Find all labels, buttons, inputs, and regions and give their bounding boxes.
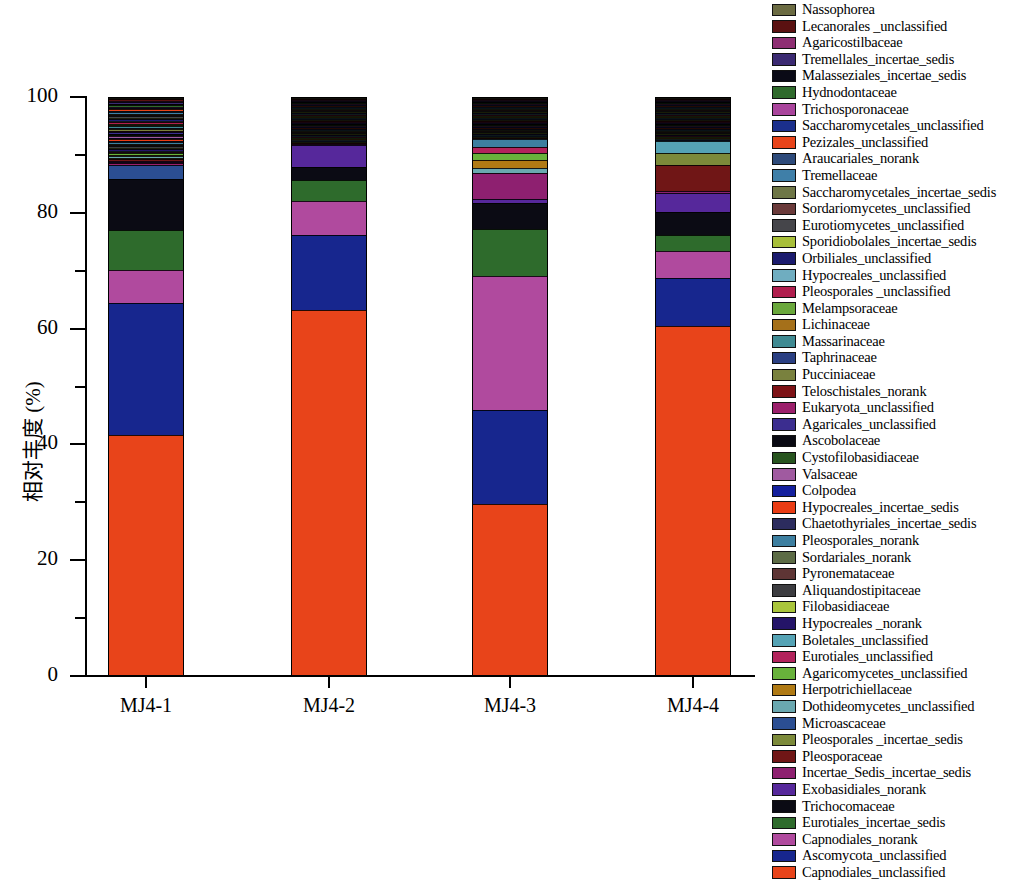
legend-item[interactable]: Agaricostilbaceae xyxy=(772,35,1036,52)
legend-item[interactable]: Melampsoraceae xyxy=(772,301,1036,318)
stacked-bar[interactable] xyxy=(291,97,367,676)
bar-segment[interactable] xyxy=(109,303,183,434)
legend-item[interactable]: Massarinaceae xyxy=(772,334,1036,351)
stacked-bar[interactable] xyxy=(108,97,184,676)
bar-segment[interactable] xyxy=(109,165,183,179)
legend-item[interactable]: Aliquandostipitaceae xyxy=(772,583,1036,600)
legend-label: Pezizales_unclassified xyxy=(802,135,928,150)
legend-item[interactable]: Sporidiobolales_incertae_sedis xyxy=(772,234,1036,251)
legend-item[interactable]: Exobasidiales_norank xyxy=(772,782,1036,799)
bar-segment[interactable] xyxy=(656,278,730,326)
bar-segment[interactable] xyxy=(109,179,183,230)
legend-item[interactable]: Teloschistales_norank xyxy=(772,384,1036,401)
legend-item[interactable]: Pyronemataceae xyxy=(772,566,1036,583)
bar-segment[interactable] xyxy=(109,270,183,303)
bar-segment[interactable] xyxy=(292,201,366,235)
bar-segment[interactable] xyxy=(656,235,730,251)
legend-item[interactable]: Hydnodontaceae xyxy=(772,85,1036,102)
legend-item[interactable]: Capnodiales_norank xyxy=(772,832,1036,849)
legend-item[interactable]: Boletales_unclassified xyxy=(772,633,1036,650)
legend-item[interactable]: Lichinaceae xyxy=(772,317,1036,334)
legend-item[interactable]: Eurotiales_unclassified xyxy=(772,649,1036,666)
bar-segment[interactable] xyxy=(473,153,547,160)
legend-label: Eukaryota_unclassified xyxy=(802,400,934,415)
legend-item[interactable]: Hypocreales_unclassified xyxy=(772,268,1036,285)
bar-segment[interactable] xyxy=(109,435,183,676)
legend-item[interactable]: Dothideomycetes_unclassified xyxy=(772,699,1036,716)
bar-segment[interactable] xyxy=(292,167,366,180)
bar-segment[interactable] xyxy=(656,165,730,191)
legend-item[interactable]: Nassophorea xyxy=(772,2,1036,19)
legend-item[interactable]: Saccharomycetales_incertae_sedis xyxy=(772,185,1036,202)
legend-item[interactable]: Saccharomycetales_unclassified xyxy=(772,118,1036,135)
legend-item[interactable]: Eukaryota_unclassified xyxy=(772,400,1036,417)
legend-item[interactable]: Hypocreales _norank xyxy=(772,616,1036,633)
bar-segment[interactable] xyxy=(656,141,730,153)
legend-label: Hydnodontaceae xyxy=(802,85,897,100)
legend-item[interactable]: Lecanorales _unclassified xyxy=(772,19,1036,36)
legend-item[interactable]: Araucariales_norank xyxy=(772,151,1036,168)
legend-swatch xyxy=(772,70,796,83)
legend-swatch xyxy=(772,800,796,813)
legend-item[interactable]: Trichocomaceae xyxy=(772,799,1036,816)
bar-segment[interactable] xyxy=(292,145,366,167)
bar-segment[interactable] xyxy=(292,180,366,201)
legend-item[interactable]: Eurotiomycetes_unclassified xyxy=(772,218,1036,235)
legend-item[interactable]: Pucciniaceae xyxy=(772,367,1036,384)
legend-item[interactable]: Pleosporales_norank xyxy=(772,533,1036,550)
legend-item[interactable]: Orbiliales_unclassified xyxy=(772,251,1036,268)
legend-item[interactable]: Tremellales_incertae_sedis xyxy=(772,52,1036,69)
legend-item[interactable]: Ascobolaceae xyxy=(772,433,1036,450)
legend-item[interactable]: Incertae_Sedis_incertae_sedis xyxy=(772,765,1036,782)
legend-item[interactable]: Agaricomycetes_unclassified xyxy=(772,666,1036,683)
bar-segment[interactable] xyxy=(292,310,366,676)
bar-segment[interactable] xyxy=(656,193,730,212)
bar-segment[interactable] xyxy=(656,326,730,676)
legend-item[interactable]: Sordariales_norank xyxy=(772,550,1036,567)
bar-segment[interactable] xyxy=(473,139,547,147)
bar-segment[interactable] xyxy=(109,230,183,271)
legend-item[interactable]: Herpotrichiellaceae xyxy=(772,682,1036,699)
x-tick xyxy=(145,677,147,688)
bar-segment[interactable] xyxy=(473,160,547,168)
legend-item[interactable]: Eurotiales_incertae_sedis xyxy=(772,815,1036,832)
legend-item[interactable]: Sordariomycetes_unclassified xyxy=(772,201,1036,218)
bar-segment[interactable] xyxy=(473,203,547,229)
bar-segment[interactable] xyxy=(473,410,547,504)
legend-item[interactable]: Cystofilobasidiaceae xyxy=(772,450,1036,467)
bar-segment[interactable] xyxy=(656,212,730,235)
legend-swatch xyxy=(772,302,796,315)
y-tick-label: 80 xyxy=(0,201,58,222)
legend-item[interactable]: Microascaceae xyxy=(772,716,1036,733)
bar-segment[interactable] xyxy=(473,504,547,676)
bar-segment[interactable] xyxy=(473,173,547,199)
bar-segment[interactable] xyxy=(473,229,547,275)
legend-item[interactable]: Hypocreales_incertae_sedis xyxy=(772,500,1036,517)
legend-item[interactable]: Tremellaceae xyxy=(772,168,1036,185)
legend-item[interactable]: Taphrinaceae xyxy=(772,350,1036,367)
legend-item[interactable]: Capnodiales_unclassified xyxy=(772,865,1036,881)
legend-swatch xyxy=(772,203,796,216)
legend-item[interactable]: Valsaceae xyxy=(772,467,1036,484)
legend-item[interactable]: Agaricales_unclassified xyxy=(772,417,1036,434)
bar-segment[interactable] xyxy=(656,153,730,166)
legend-item[interactable]: Pezizales_unclassified xyxy=(772,135,1036,152)
legend-item[interactable]: Pleosporales _incertae_sedis xyxy=(772,732,1036,749)
legend-item[interactable]: Malasseziales_incertae_sedis xyxy=(772,68,1036,85)
legend-item[interactable]: Ascomycota_unclassified xyxy=(772,848,1036,865)
stacked-bar[interactable] xyxy=(655,97,731,676)
legend-label: Hypocreales_unclassified xyxy=(802,268,946,283)
bar-segment[interactable] xyxy=(656,251,730,278)
legend-item[interactable]: Pleosporaceae xyxy=(772,749,1036,766)
bar-segment[interactable] xyxy=(292,235,366,310)
bar-segment[interactable] xyxy=(473,276,547,410)
legend-item[interactable]: Pleosporales _unclassified xyxy=(772,284,1036,301)
y-tick-label: 40 xyxy=(0,432,58,453)
legend-item[interactable]: Trichosporonaceae xyxy=(772,102,1036,119)
legend-item[interactable]: Chaetothyriales_incertae_sedis xyxy=(772,516,1036,533)
legend-item[interactable]: Filobasidiaceae xyxy=(772,599,1036,616)
stacked-bar[interactable] xyxy=(472,97,548,676)
y-tick-minor xyxy=(75,617,87,619)
legend-item[interactable]: Colpodea xyxy=(772,483,1036,500)
bar-segment[interactable] xyxy=(473,147,547,154)
